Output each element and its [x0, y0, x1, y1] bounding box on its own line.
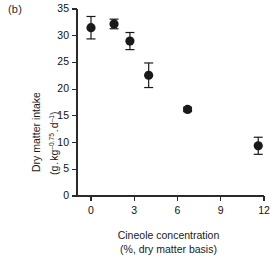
figure-panel-b: (b) Dry matter intake (g.kg–0.75.d–1) Ci…	[0, 0, 277, 261]
x-tick-label: 0	[80, 204, 102, 216]
y-tick-label: 10	[47, 136, 69, 148]
plot-svg	[0, 0, 277, 261]
data-point-group	[125, 33, 134, 50]
y-tick-label: 15	[47, 109, 69, 121]
plot-area: 05101520253035036912	[0, 0, 277, 261]
x-tick-label: 6	[167, 204, 189, 216]
y-tick-label: 20	[47, 82, 69, 94]
y-tick-label: 0	[47, 189, 69, 201]
data-point-group	[109, 19, 118, 29]
y-tick-label: 5	[47, 162, 69, 174]
data-point-group	[86, 16, 95, 38]
data-point-group	[183, 105, 192, 114]
x-tick-label: 12	[253, 204, 275, 216]
y-tick-label: 30	[47, 29, 69, 41]
x-tick-label: 3	[123, 204, 145, 216]
x-tick-label: 9	[210, 204, 232, 216]
data-point-marker	[144, 71, 153, 80]
data-point-marker	[125, 36, 134, 45]
data-point-group	[254, 137, 263, 154]
y-tick-label: 25	[47, 55, 69, 67]
data-point-group	[144, 63, 153, 88]
data-point-marker	[183, 105, 192, 114]
y-tick-label: 35	[47, 2, 69, 14]
data-point-marker	[86, 23, 95, 32]
data-point-marker	[254, 141, 263, 150]
data-point-marker	[109, 19, 118, 28]
